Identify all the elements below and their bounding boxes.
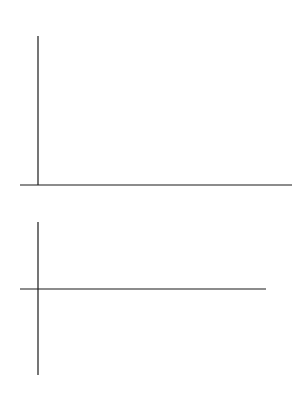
n-vs-t-plot bbox=[20, 222, 266, 375]
figure bbox=[0, 0, 300, 393]
q-vs-t-plot bbox=[20, 36, 292, 185]
